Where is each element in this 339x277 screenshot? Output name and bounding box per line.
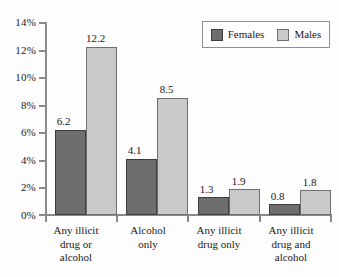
category-label-1-line-2: drug or [40, 238, 112, 252]
x-tick-mark [116, 215, 118, 222]
category-label-3-line-1: Any illicit [183, 224, 255, 238]
bar-females-any-illicit-drug-only[interactable] [198, 197, 229, 215]
x-tick-mark [45, 215, 47, 222]
category-label-2-line-1: Alcohol [112, 224, 184, 238]
legend-entry-females[interactable]: Females [211, 29, 265, 41]
legend-label-males: Males [294, 29, 321, 40]
category-label-4-line-3: alcohol [255, 251, 327, 265]
y-tick-label-12: 12% [2, 45, 36, 56]
bar-value-females-4: 0.8 [261, 191, 294, 202]
y-tick-label-0: 0% [2, 210, 36, 221]
bar-value-males-3: 1.9 [220, 176, 257, 187]
bar-females-alcohol-only[interactable] [126, 159, 157, 216]
chart-legend: Females Males [202, 21, 330, 48]
category-label-2: Alcohol only [112, 224, 184, 251]
category-label-4-line-1: Any illicit [255, 224, 327, 238]
bar-value-males-2: 8.5 [148, 84, 185, 95]
bar-chart: 14% 12% 10% 8% 6% 4% 2% 0% [0, 0, 339, 277]
legend-swatch-females-icon [211, 29, 223, 41]
bar-value-females-3: 1.3 [190, 184, 223, 195]
y-tick-label-10: 10% [2, 72, 36, 83]
plot-area [46, 22, 331, 215]
y-tick-label-6: 6% [2, 127, 36, 138]
bar-males-any-illicit-drug-or-alcohol[interactable] [86, 47, 117, 215]
y-tick-label-8: 8% [2, 100, 36, 111]
y-tick-label-14: 14% [2, 17, 36, 28]
category-label-1-line-3: alcohol [40, 251, 112, 265]
x-tick-mark [259, 215, 261, 222]
x-tick-mark [187, 215, 189, 222]
category-label-4: Any illicit drug and alcohol [255, 224, 327, 265]
category-label-3: Any illicit drug only [183, 224, 255, 251]
bar-value-males-1: 12.2 [77, 33, 114, 44]
bar-value-males-4: 1.8 [291, 177, 328, 188]
category-label-3-line-2: drug only [183, 238, 255, 252]
bar-males-any-illicit-drug-and-alcohol[interactable] [300, 190, 331, 215]
bar-males-alcohol-only[interactable] [157, 98, 188, 215]
legend-entry-males[interactable]: Males [277, 29, 321, 41]
y-tick-label-4: 4% [2, 155, 36, 166]
x-tick-mark [330, 215, 332, 222]
bar-females-any-illicit-drug-or-alcohol[interactable] [55, 130, 86, 216]
bar-males-any-illicit-drug-only[interactable] [229, 189, 260, 215]
legend-label-females: Females [228, 29, 265, 40]
y-tick-label-2: 2% [2, 182, 36, 193]
bar-value-females-1: 6.2 [47, 116, 80, 127]
bar-females-any-illicit-drug-and-alcohol[interactable] [269, 204, 300, 215]
legend-swatch-males-icon [277, 29, 289, 41]
category-label-4-line-2: drug and [255, 238, 327, 252]
category-label-1-line-1: Any illicit [40, 224, 112, 238]
category-label-1: Any illicit drug or alcohol [40, 224, 112, 265]
bar-value-females-2: 4.1 [118, 145, 151, 156]
category-label-2-line-2: only [112, 238, 184, 252]
